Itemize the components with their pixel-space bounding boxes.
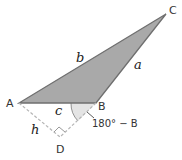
right-angle-marker bbox=[54, 127, 65, 132]
triangle-abc bbox=[19, 14, 166, 103]
side-b-label: b bbox=[76, 50, 84, 65]
altitude-h bbox=[19, 103, 60, 137]
side-c-label: c bbox=[55, 103, 63, 118]
vertex-a-label: A bbox=[6, 97, 14, 110]
vertex-c-label: C bbox=[169, 4, 177, 17]
side-a-label: a bbox=[134, 57, 142, 72]
side-h-label: h bbox=[31, 122, 39, 137]
vertex-d-label: D bbox=[56, 143, 64, 156]
triangle-diagram: A B C D a b c h 180° − B bbox=[0, 0, 182, 160]
vertex-b-label: B bbox=[98, 100, 106, 113]
exterior-angle-label: 180° − B bbox=[92, 118, 138, 129]
